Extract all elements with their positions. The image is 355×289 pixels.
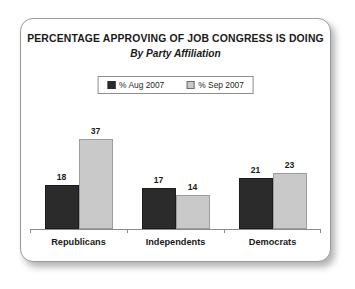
category-label-democrats: Democrats (224, 237, 321, 247)
bar-group-democrats: 21 23 (224, 107, 321, 229)
bar-republicans-sep (79, 139, 113, 229)
bar-groups: 18 37 17 (30, 107, 321, 229)
bar-pair-democrats: 21 23 (239, 107, 307, 229)
barwrap-independents-sep: 14 (176, 107, 210, 229)
plot-area: 18 37 17 (30, 107, 321, 229)
barwrap-republicans-sep: 37 (79, 107, 113, 229)
x-axis-line (30, 229, 321, 230)
bar-value-label-democrats-sep: 23 (285, 160, 295, 170)
legend-item-aug-2007: % Aug 2007 (107, 80, 164, 90)
x-axis-category-labels: Republicans Independents Democrats (30, 237, 321, 247)
barwrap-democrats-sep: 23 (273, 107, 307, 229)
chart-card: PERCENTAGE APPROVING OF JOB CONGRESS IS … (20, 18, 331, 262)
bar-value-label-democrats-aug: 21 (251, 165, 261, 175)
axis-tick (30, 229, 31, 233)
legend-swatch-icon-sep-2007 (186, 81, 194, 89)
bar-independents-aug (142, 188, 176, 229)
axis-tick (320, 229, 321, 233)
legend-item-sep-2007: % Sep 2007 (186, 80, 244, 90)
bar-value-label-independents-sep: 14 (188, 182, 198, 192)
bar-group-independents: 17 14 (127, 107, 224, 229)
bar-value-label-republicans-aug: 18 (57, 172, 67, 182)
bar-democrats-sep (273, 173, 307, 229)
barwrap-republicans-aug: 18 (45, 107, 79, 229)
bar-value-label-independents-aug: 17 (154, 175, 164, 185)
chart-legend: % Aug 2007 % Sep 2007 (97, 76, 254, 94)
axis-tick (224, 229, 225, 233)
bar-pair-independents: 17 14 (142, 107, 210, 229)
bar-democrats-aug (239, 178, 273, 229)
category-label-republicans: Republicans (30, 237, 127, 247)
bar-republicans-aug (45, 185, 79, 229)
legend-swatch-icon-aug-2007 (107, 81, 115, 89)
chart-title: PERCENTAGE APPROVING OF JOB CONGRESS IS … (21, 33, 330, 44)
bar-pair-republicans: 18 37 (45, 107, 113, 229)
chart-subtitle: By Party Affiliation (21, 48, 330, 59)
barwrap-democrats-aug: 21 (239, 107, 273, 229)
chart-screenshot: PERCENTAGE APPROVING OF JOB CONGRESS IS … (0, 0, 355, 289)
bar-value-label-republicans-sep: 37 (91, 126, 101, 136)
axis-tick (127, 229, 128, 233)
bar-independents-sep (176, 195, 210, 229)
legend-label-sep-2007: % Sep 2007 (198, 80, 244, 90)
legend-label-aug-2007: % Aug 2007 (119, 80, 164, 90)
barwrap-independents-aug: 17 (142, 107, 176, 229)
bar-group-republicans: 18 37 (30, 107, 127, 229)
category-label-independents: Independents (127, 237, 224, 247)
